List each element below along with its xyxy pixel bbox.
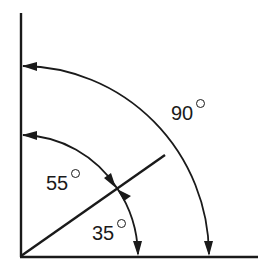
angle-diagram [0,0,276,279]
arrowhead-inner-top [22,131,37,140]
arrowhead-outer-bottom [204,241,213,256]
label-35-degrees: 35 [92,223,126,243]
arrowhead-35-at-ray [117,189,131,201]
label-90-degrees: 90 [171,103,205,123]
arrowhead-outer-top [22,62,37,71]
arrowhead-55-at-ray [104,173,116,188]
label-90-value: 90 [171,102,193,124]
degree-icon [117,219,126,228]
arrowhead-inner-bottom [133,241,142,256]
label-55-degrees: 55 [46,173,80,193]
degree-icon [71,169,80,178]
label-55-value: 55 [46,172,68,194]
degree-icon [196,99,205,108]
label-35-value: 35 [92,222,114,244]
